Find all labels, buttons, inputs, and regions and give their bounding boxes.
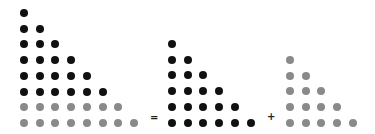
dot: [99, 119, 107, 127]
dot: [333, 103, 341, 111]
dot: [199, 71, 207, 79]
dot: [67, 119, 75, 127]
dot: [67, 56, 75, 64]
dot: [231, 119, 239, 127]
dot: [168, 119, 176, 127]
equals-sign: =: [150, 113, 158, 123]
dot: [83, 119, 91, 127]
dot: [36, 88, 44, 96]
dot: [20, 119, 28, 127]
dot: [302, 119, 310, 127]
dot: [36, 25, 44, 33]
dot: [67, 72, 75, 80]
dot: [215, 119, 223, 127]
dot: [168, 71, 176, 79]
dot: [286, 87, 294, 95]
dot: [215, 103, 223, 111]
dot: [168, 103, 176, 111]
dot: [184, 103, 192, 111]
dot: [317, 87, 325, 95]
dot: [83, 103, 91, 111]
dot: [20, 9, 28, 17]
dot: [67, 88, 75, 96]
dot: [199, 119, 207, 127]
dot: [184, 119, 192, 127]
dot: [20, 88, 28, 96]
dot: [168, 40, 176, 48]
dot: [51, 119, 59, 127]
dot: [130, 119, 138, 127]
dot: [333, 119, 341, 127]
dot: [20, 56, 28, 64]
dot: [83, 72, 91, 80]
dot: [215, 87, 223, 95]
dot: [83, 88, 91, 96]
dot: [20, 40, 28, 48]
dot: [247, 119, 255, 127]
dot: [99, 88, 107, 96]
dot: [199, 103, 207, 111]
dot: [199, 87, 207, 95]
dot: [36, 40, 44, 48]
dot: [184, 56, 192, 64]
dot: [317, 103, 325, 111]
dot: [286, 72, 294, 80]
dot: [317, 119, 325, 127]
dot-triangle-diagram: =+: [0, 0, 375, 134]
dot: [36, 119, 44, 127]
dot: [51, 56, 59, 64]
dot: [51, 40, 59, 48]
dot: [349, 119, 357, 127]
dot: [67, 103, 75, 111]
dot: [302, 72, 310, 80]
dot: [286, 103, 294, 111]
dot: [36, 56, 44, 64]
dot: [231, 103, 239, 111]
dot: [36, 72, 44, 80]
dot: [184, 71, 192, 79]
dot: [286, 56, 294, 64]
dot: [51, 103, 59, 111]
plus-sign: +: [267, 112, 275, 122]
dot: [302, 87, 310, 95]
dot: [51, 72, 59, 80]
dot: [184, 87, 192, 95]
dot: [20, 72, 28, 80]
dot: [36, 103, 44, 111]
dot: [20, 103, 28, 111]
dot: [168, 87, 176, 95]
dot: [286, 119, 294, 127]
dot: [99, 103, 107, 111]
dot: [168, 56, 176, 64]
dot: [302, 103, 310, 111]
dot: [20, 25, 28, 33]
dot: [51, 88, 59, 96]
dot: [114, 103, 122, 111]
dot: [114, 119, 122, 127]
